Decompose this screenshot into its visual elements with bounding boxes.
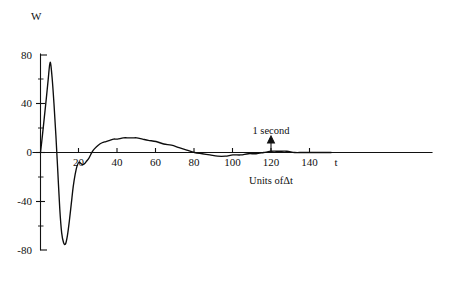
chart-plot-area: W 80 40 0 -40 -80 20 40 60 80 100 120 14… [0, 0, 462, 283]
x-tick-label-20: 20 [73, 156, 85, 168]
y-tick-label-80: 80 [21, 49, 33, 61]
x-tick-label-120: 120 [263, 156, 280, 168]
x-tick-label-140: 140 [301, 156, 318, 168]
one-second-annotation: 1 second [252, 125, 290, 136]
y-tick-label-40: 40 [21, 97, 33, 109]
y-axis-title: W [31, 10, 42, 22]
x-tick-label-80: 80 [189, 156, 201, 168]
waveform-curve [41, 62, 332, 244]
x-axis-units-caption: Units ofΔt [249, 175, 293, 186]
y-tick-label-minus80: -80 [17, 244, 32, 256]
y-tick-label-minus40: -40 [17, 195, 32, 207]
x-tick-label-100: 100 [224, 156, 241, 168]
chart-figure: W 80 40 0 -40 -80 20 40 60 80 100 120 14… [0, 0, 462, 283]
one-second-arrow-icon [268, 136, 275, 152]
x-axis-title: t [334, 156, 337, 168]
x-tick-label-40: 40 [112, 156, 124, 168]
x-tick-label-60: 60 [150, 156, 162, 168]
y-tick-label-0: 0 [27, 146, 33, 158]
